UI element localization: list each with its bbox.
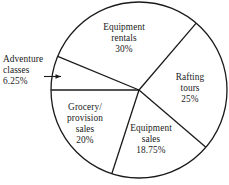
slice-value: 30%: [84, 44, 164, 55]
slice-value: 25%: [160, 94, 220, 105]
slice-label-equipment-rentals: Equipment rentals 30%: [84, 22, 164, 55]
slice-label-line: Grocery/: [52, 102, 118, 113]
slice-label-adventure-classes: Adventure classes 6.25%: [2, 54, 60, 87]
slice-label-line: sales: [52, 124, 118, 135]
slice-label-equipment-sales: Equipment sales 18.75%: [113, 123, 189, 156]
slice-label-line: sales: [113, 134, 189, 145]
pie-chart: Equipment rentals 30% Rafting tours 25% …: [0, 0, 229, 185]
slice-label-line: Equipment: [113, 123, 189, 134]
slice-label-line: classes: [2, 65, 60, 76]
slice-value: 20%: [52, 135, 118, 146]
slice-label-line: rentals: [84, 33, 164, 44]
slice-value: 18.75%: [113, 145, 189, 156]
slice-label-line: tours: [160, 83, 220, 94]
slice-value: 6.25%: [2, 76, 60, 87]
slice-label-line: Rafting: [160, 72, 220, 83]
slice-label-grocery-provision-sales: Grocery/ provision sales 20%: [52, 102, 118, 146]
slice-label-rafting-tours: Rafting tours 25%: [160, 72, 220, 105]
slice-label-line: Adventure: [2, 54, 60, 65]
slice-label-line: provision: [52, 113, 118, 124]
slice-label-line: Equipment: [84, 22, 164, 33]
